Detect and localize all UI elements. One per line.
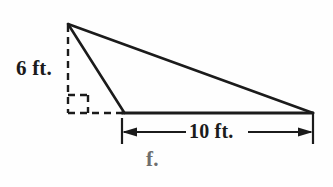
triangle-diagram-svg (0, 0, 333, 187)
dimension-arrow-right-icon (298, 128, 313, 137)
triangle-outline (68, 24, 313, 113)
geometry-figure: 6 ft. 10 ft. f. (0, 0, 333, 187)
problem-part-label: f. (146, 149, 159, 170)
height-measurement-label: 6 ft. (16, 58, 52, 79)
dimension-arrow-left-icon (122, 128, 137, 137)
triangle-hypotenuse-line (68, 24, 313, 113)
base-measurement-label: 10 ft. (186, 121, 237, 141)
right-angle-marker (68, 95, 88, 113)
triangle-left-side-line (68, 24, 125, 113)
